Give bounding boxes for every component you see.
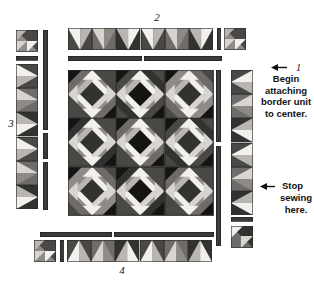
bottom-geese-3 (115, 240, 139, 262)
left-geese-3 (16, 112, 38, 136)
center-star-block-2-2 (116, 118, 164, 166)
left-geese-6 (16, 185, 38, 209)
center-star-block-3-2 (116, 167, 164, 215)
left-geese-4 (16, 137, 38, 161)
top-geese-6 (189, 28, 213, 50)
center-star-block-1-1 (68, 70, 116, 118)
quilt-assembly-diagram: 2 3 4 1 Begin attaching border unit to c… (0, 0, 314, 289)
top-geese-5 (165, 28, 189, 50)
top-sashing-short (217, 28, 222, 50)
right-sashing-short (231, 217, 253, 222)
bottom-geese-6 (188, 240, 212, 262)
left-sashing-short (16, 56, 38, 61)
bottom-geese-2 (91, 240, 115, 262)
center-star-block-3-1 (68, 167, 116, 215)
left-top-corner-square (16, 30, 38, 52)
left-geese-5 (16, 161, 38, 185)
bottom-geese-5 (164, 240, 188, 262)
right-bottom-corner-square (231, 226, 253, 248)
top-right-corner-square (224, 28, 246, 50)
top-geese-3 (116, 28, 140, 50)
center-star-block-2-1 (68, 118, 116, 166)
right-sashing-upper (216, 70, 221, 142)
left-geese-2 (16, 88, 38, 112)
bottom-geese-1 (67, 240, 91, 262)
right-geese-5 (231, 167, 253, 191)
top-sashing-left (68, 56, 142, 61)
right-geese-6 (231, 191, 253, 215)
right-geese-3 (231, 118, 253, 142)
right-geese-2 (231, 94, 253, 118)
pieced-artwork-layer (0, 0, 314, 289)
left-geese-1 (16, 64, 38, 88)
bottom-geese-4 (140, 240, 164, 262)
top-geese-4 (141, 28, 165, 50)
left-sashing-upper (43, 30, 48, 130)
top-sashing-right (144, 56, 222, 61)
bottom-sashing-left (40, 232, 112, 237)
top-geese-2 (92, 28, 116, 50)
left-sashing-lower (43, 162, 48, 210)
bottom-sashing-short (60, 240, 65, 262)
center-star-block-2-3 (165, 118, 213, 166)
right-sashing-lower (216, 146, 221, 246)
right-geese-4 (231, 143, 253, 167)
bottom-left-corner-square (34, 240, 56, 262)
center-star-block-1-2 (116, 70, 164, 118)
center-star-block-3-3 (165, 167, 213, 215)
center-star-block-1-3 (165, 70, 213, 118)
left-sashing-mid (43, 133, 48, 159)
bottom-sashing-right (114, 232, 214, 237)
right-geese-1 (231, 70, 253, 94)
top-geese-1 (68, 28, 92, 50)
